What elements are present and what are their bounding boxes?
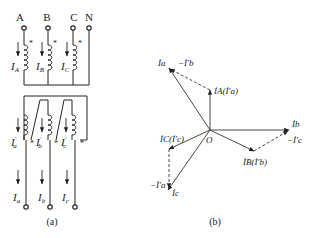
svg-text:IA: IA — [10, 60, 20, 74]
svg-text:I′b: I′b — [35, 135, 42, 150]
label-IB-Ib-prime: İB(İ′b) — [242, 157, 267, 167]
label-neg-Ib-prime: −İ′b — [178, 58, 194, 68]
primary-current-arrows — [18, 42, 67, 56]
phasor-IB — [210, 130, 254, 151]
caption-a: (a) — [46, 216, 57, 228]
label-neg-Ic-prime: −İ′c — [287, 135, 302, 145]
origin-label: O — [206, 135, 213, 145]
label-IA-Ia-prime: İA(İ′a) — [213, 86, 238, 96]
label-Ib: İb — [291, 119, 300, 129]
secondary-current-labels: I′a I′b I′c — [10, 135, 67, 150]
diagram-canvas: A B C N * * * — [0, 0, 310, 238]
terminal-label-c: C — [70, 11, 77, 23]
terminal-label-a: A — [16, 11, 24, 23]
label-IC-Ic-prime: İC(İ′c) — [159, 134, 184, 144]
phasor-diagram-b: İa −İ′b İA(İ′a) İb −İ′c İB(İ′b) İC(İ′c) … — [150, 58, 302, 228]
svg-text:Ic: Ic — [61, 191, 70, 205]
circuit-diagram-a: A B C N * * * — [10, 11, 93, 228]
polarity-mark: * — [30, 139, 34, 148]
terminal-label-b: B — [43, 11, 50, 23]
line-current-labels: Ia Ib Ic — [12, 191, 70, 205]
svg-text:Ia: Ia — [12, 191, 21, 205]
svg-text:I′c: I′c — [60, 135, 67, 150]
top-terminals — [22, 26, 91, 30]
line-current-arrows — [18, 170, 67, 184]
svg-text:Ib: Ib — [37, 191, 46, 205]
polarity-mark: * — [53, 39, 57, 48]
phasor-neg-Ib-prime — [170, 69, 210, 90]
polarity-mark: * — [78, 39, 82, 48]
svg-text:IC: IC — [60, 60, 70, 74]
primary-current-labels: IA IB IC — [10, 60, 70, 74]
svg-text:IB: IB — [35, 60, 45, 74]
bottom-terminals — [24, 205, 77, 209]
polarity-mark: * — [80, 139, 84, 148]
label-Ic: İc — [171, 188, 179, 198]
terminal-label-n: N — [85, 11, 93, 23]
polarity-mark: * — [29, 39, 33, 48]
phasor-neg-Ic-prime — [254, 131, 288, 151]
caption-b: (b) — [209, 216, 221, 228]
label-Ia: İa — [157, 58, 166, 68]
phasor-Ia — [169, 68, 210, 130]
label-neg-Ia-prime: −İ′a — [150, 180, 166, 190]
secondary-delta-windings — [24, 96, 87, 205]
svg-text:I′a: I′a — [10, 135, 17, 150]
polarity-mark: * — [54, 139, 58, 148]
